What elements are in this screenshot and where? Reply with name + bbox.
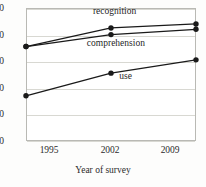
y-tick-label-60: 60 [0, 57, 4, 67]
gridline-80 [27, 36, 195, 37]
gridline-0 [27, 141, 195, 142]
x-tick-label-2002: 2002 [90, 146, 130, 156]
line-chart: 100 80 60 40 20 0 1995 2002 2009 Year of… [0, 0, 206, 187]
y-tick-label-100: 100 [0, 4, 4, 14]
y-tick-label-40: 40 [0, 84, 4, 94]
gridline-40 [27, 89, 195, 90]
gridline-60 [27, 62, 195, 63]
y-tick-label-80: 80 [0, 31, 4, 41]
series-label-comprehension: comprehension [87, 39, 145, 49]
y-tick-label-0: 0 [0, 137, 4, 147]
x-tick-label-1995: 1995 [29, 146, 69, 156]
y-tick-label-20: 20 [0, 110, 4, 120]
series-label-recognition: recognition [93, 7, 136, 17]
gridline-20 [27, 115, 195, 116]
x-tick-label-2009: 2009 [150, 146, 190, 156]
x-axis-title: Year of survey [0, 166, 206, 176]
plot-area [26, 8, 196, 141]
series-label-use: use [119, 72, 132, 82]
